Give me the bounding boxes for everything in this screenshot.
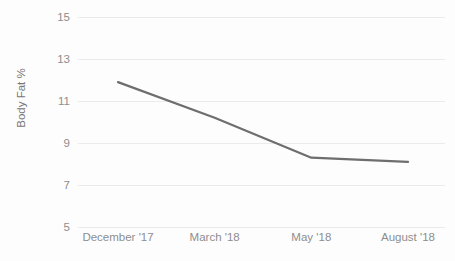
body-fat-line <box>118 82 408 162</box>
x-tick-label: August '18 <box>381 231 435 243</box>
line-chart: Body Fat % 151311975 December '17March '… <box>0 0 455 261</box>
x-axis-tick-labels: December '17March '18May '18August '18 <box>0 231 455 255</box>
data-series-layer <box>0 0 455 261</box>
x-tick-label: March '18 <box>190 231 240 243</box>
x-tick-label: December '17 <box>82 231 153 243</box>
x-tick-label: May '18 <box>291 231 331 243</box>
